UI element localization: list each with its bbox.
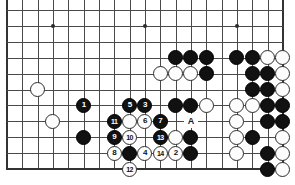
- stone-move-number: 11: [111, 118, 117, 125]
- stone-black-move-7[interactable]: 7: [153, 114, 168, 129]
- stone-black[interactable]: [260, 162, 275, 177]
- stone-white-move-4[interactable]: 4: [137, 146, 152, 161]
- stone-white[interactable]: [229, 98, 244, 113]
- stone-white[interactable]: [275, 130, 290, 145]
- stone-white[interactable]: [275, 66, 290, 81]
- stone-black[interactable]: [229, 50, 244, 65]
- stone-move-number: 1: [82, 101, 86, 109]
- stone-move-number: 6: [143, 117, 147, 125]
- stone-black[interactable]: [199, 50, 214, 65]
- star-point: [235, 24, 239, 28]
- stone-black[interactable]: [260, 66, 275, 81]
- stone-move-number: 4: [143, 149, 147, 157]
- stone-white[interactable]: [275, 82, 290, 97]
- stone-white[interactable]: [168, 66, 183, 81]
- stone-white[interactable]: [45, 114, 60, 129]
- stone-white-move-12[interactable]: 12: [122, 162, 137, 177]
- stone-move-number: 9: [112, 133, 116, 141]
- go-board-diagram: 1119851012364713142A: [0, 0, 295, 185]
- goban-grid: 1119851012364713142A: [0, 0, 295, 185]
- stone-white[interactable]: [245, 98, 260, 113]
- stone-black-move-1[interactable]: 1: [76, 98, 91, 113]
- stone-black[interactable]: [122, 146, 137, 161]
- stone-black-move-5[interactable]: 5: [122, 98, 137, 113]
- star-point: [51, 24, 55, 28]
- stone-black[interactable]: [168, 98, 183, 113]
- stone-black[interactable]: [183, 98, 198, 113]
- stone-move-number: 14: [157, 150, 164, 157]
- stone-move-number: 10: [126, 134, 133, 141]
- stone-white[interactable]: [229, 146, 244, 161]
- stone-white[interactable]: [153, 66, 168, 81]
- stone-white[interactable]: [168, 130, 183, 145]
- stone-black[interactable]: [275, 98, 290, 113]
- stone-black[interactable]: [76, 130, 91, 145]
- stone-move-number: 5: [128, 101, 132, 109]
- stone-black[interactable]: [260, 82, 275, 97]
- stone-white[interactable]: [122, 114, 137, 129]
- stone-move-number: 3: [143, 101, 147, 109]
- stone-black[interactable]: [245, 130, 260, 145]
- stone-white[interactable]: [229, 114, 244, 129]
- stone-black[interactable]: [168, 50, 183, 65]
- stone-black-move-9[interactable]: 9: [107, 130, 122, 145]
- stone-move-number: 8: [112, 149, 116, 157]
- stone-white[interactable]: [229, 130, 244, 145]
- stone-black-move-3[interactable]: 3: [137, 98, 152, 113]
- board-marker-a: A: [184, 114, 198, 128]
- stone-move-number: 13: [157, 134, 164, 141]
- stone-black[interactable]: [260, 114, 275, 129]
- stone-black[interactable]: [183, 146, 198, 161]
- stone-white-move-8[interactable]: 8: [107, 146, 122, 161]
- grid-line-horizontal: [7, 74, 283, 75]
- stone-white[interactable]: [275, 146, 290, 161]
- stone-white-move-10[interactable]: 10: [122, 130, 137, 145]
- stone-black[interactable]: [199, 66, 214, 81]
- stone-black[interactable]: [245, 66, 260, 81]
- stone-black[interactable]: [275, 114, 290, 129]
- grid-line-horizontal: [7, 90, 283, 91]
- stone-move-number: 7: [158, 117, 162, 125]
- grid-line-horizontal: [7, 10, 283, 11]
- stone-white[interactable]: [275, 50, 290, 65]
- stone-white-move-2[interactable]: 2: [168, 146, 183, 161]
- stone-move-number: 2: [174, 149, 178, 157]
- stone-black[interactable]: [260, 146, 275, 161]
- stone-white[interactable]: [183, 66, 198, 81]
- stone-black[interactable]: [245, 82, 260, 97]
- stone-black[interactable]: [245, 50, 260, 65]
- stone-white[interactable]: [199, 98, 214, 113]
- stone-white[interactable]: [275, 162, 290, 177]
- stone-black-move-11[interactable]: 11: [107, 114, 122, 129]
- grid-line-horizontal: [7, 42, 283, 43]
- stone-white-move-14[interactable]: 14: [153, 146, 168, 161]
- stone-white[interactable]: [30, 82, 45, 97]
- stone-move-number: 12: [126, 166, 133, 173]
- stone-black[interactable]: [260, 98, 275, 113]
- grid-line-horizontal: [7, 168, 283, 170]
- stone-black[interactable]: [183, 130, 198, 145]
- stone-black-move-13[interactable]: 13: [153, 130, 168, 145]
- stone-black[interactable]: [183, 50, 198, 65]
- star-point: [143, 24, 147, 28]
- stone-white-move-6[interactable]: 6: [137, 114, 152, 129]
- stone-white[interactable]: [260, 50, 275, 65]
